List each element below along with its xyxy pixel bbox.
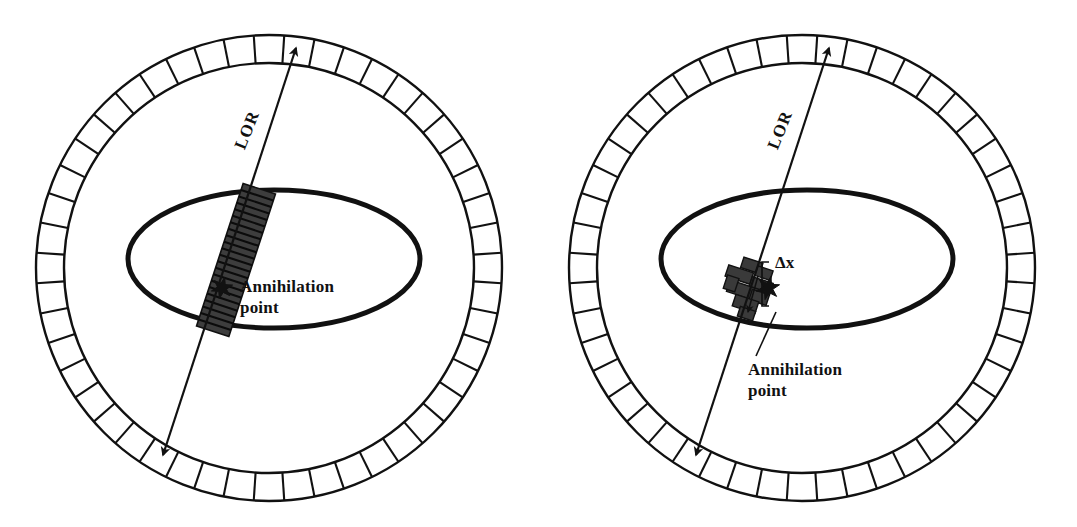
detector-divider bbox=[224, 469, 229, 496]
detector-divider bbox=[383, 438, 399, 461]
detector-divider bbox=[37, 281, 65, 283]
detector-divider bbox=[1003, 308, 1030, 313]
detector-divider bbox=[423, 403, 444, 421]
ring-inner-circle bbox=[597, 63, 1007, 473]
detector-divider bbox=[842, 469, 847, 496]
detector-divider bbox=[282, 36, 284, 64]
detector-divider bbox=[383, 74, 399, 97]
detector-divider bbox=[439, 139, 462, 155]
detector-divider bbox=[893, 452, 905, 477]
detector-divider bbox=[360, 452, 372, 477]
detector-divider bbox=[37, 253, 65, 255]
detector-divider bbox=[40, 223, 67, 228]
detector-ring-right bbox=[569, 35, 1035, 501]
detector-divider bbox=[40, 308, 67, 313]
detector-divider bbox=[194, 462, 203, 489]
detector-divider bbox=[972, 139, 995, 155]
detector-divider bbox=[1007, 281, 1035, 283]
detector-divider bbox=[463, 193, 490, 202]
detector-divider bbox=[627, 114, 648, 132]
detector-divider bbox=[593, 359, 618, 371]
detector-divider bbox=[570, 253, 598, 255]
detector-divider bbox=[439, 382, 462, 398]
detector-divider bbox=[972, 382, 995, 398]
detector-divider bbox=[360, 59, 372, 84]
detector-divider bbox=[868, 462, 877, 489]
detector-divider bbox=[94, 403, 115, 421]
detector-divider bbox=[757, 39, 762, 66]
detector-divider bbox=[787, 36, 789, 64]
detector-divider bbox=[815, 473, 817, 501]
detector-divider bbox=[648, 422, 666, 443]
detector-divider bbox=[842, 39, 847, 66]
detector-segments bbox=[570, 36, 1035, 501]
detector-divider bbox=[140, 74, 156, 97]
detector-divider bbox=[254, 36, 256, 64]
detector-divider bbox=[453, 165, 478, 177]
detector-divider bbox=[815, 36, 817, 64]
detector-divider bbox=[593, 165, 618, 177]
detector-divider bbox=[224, 39, 229, 66]
detector-divider bbox=[423, 114, 444, 132]
detector-divider bbox=[581, 193, 608, 202]
ring-inner-circle bbox=[64, 63, 474, 473]
pet-ring-diagram-left: LOR Annihilation point bbox=[0, 0, 539, 527]
detector-divider bbox=[996, 193, 1023, 202]
annihilation-leader-line bbox=[756, 312, 776, 356]
detector-divider bbox=[282, 473, 284, 501]
detector-divider bbox=[1003, 223, 1030, 228]
detector-divider bbox=[570, 281, 598, 283]
lor-label: LOR bbox=[764, 108, 797, 152]
pet-ring-diagram-right: LOR Δx Annihilation point bbox=[538, 0, 1077, 527]
detector-divider bbox=[75, 139, 98, 155]
detector-divider bbox=[937, 422, 955, 443]
detector-divider bbox=[60, 165, 85, 177]
ring-outer-circle bbox=[569, 35, 1035, 501]
lor-label: LOR bbox=[231, 108, 264, 152]
detector-divider bbox=[1007, 253, 1035, 255]
detector-divider bbox=[757, 469, 762, 496]
detector-divider bbox=[727, 462, 736, 489]
annihilation-label-line2: point bbox=[240, 298, 279, 317]
detector-divider bbox=[573, 308, 600, 313]
detector-divider bbox=[166, 59, 178, 84]
detector-divider bbox=[115, 93, 133, 114]
detector-segments bbox=[37, 36, 502, 501]
detector-divider bbox=[699, 452, 711, 477]
detector-divider bbox=[608, 382, 631, 398]
annihilation-label-line1: Annihilation bbox=[748, 360, 842, 379]
detector-divider bbox=[474, 253, 502, 255]
detector-divider bbox=[60, 359, 85, 371]
detector-divider bbox=[453, 359, 478, 371]
detector-divider bbox=[673, 438, 689, 461]
detector-divider bbox=[608, 139, 631, 155]
detector-divider bbox=[115, 422, 133, 443]
detector-divider bbox=[404, 93, 422, 114]
detector-divider bbox=[956, 403, 977, 421]
detector-divider bbox=[335, 462, 344, 489]
annihilation-label-line2: point bbox=[748, 381, 787, 400]
detector-divider bbox=[956, 114, 977, 132]
detector-divider bbox=[699, 59, 711, 84]
detector-ring-left bbox=[36, 35, 502, 501]
detector-divider bbox=[787, 473, 789, 501]
detector-divider bbox=[404, 422, 422, 443]
detector-divider bbox=[581, 334, 608, 343]
detector-divider bbox=[893, 59, 905, 84]
detector-divider bbox=[648, 93, 666, 114]
delta-x-label: Δx bbox=[775, 253, 795, 272]
detector-divider bbox=[868, 47, 877, 74]
detector-divider bbox=[673, 74, 689, 97]
detector-divider bbox=[463, 334, 490, 343]
detector-divider bbox=[48, 193, 75, 202]
detector-divider bbox=[916, 438, 932, 461]
detector-divider bbox=[474, 281, 502, 283]
detector-divider bbox=[573, 223, 600, 228]
figure-canvas: LOR Annihilation point LOR bbox=[0, 0, 1077, 527]
ring-outer-circle bbox=[36, 35, 502, 501]
detector-divider bbox=[140, 438, 156, 461]
detector-divider bbox=[335, 47, 344, 74]
detector-divider bbox=[727, 47, 736, 74]
detector-divider bbox=[916, 74, 932, 97]
detector-divider bbox=[194, 47, 203, 74]
